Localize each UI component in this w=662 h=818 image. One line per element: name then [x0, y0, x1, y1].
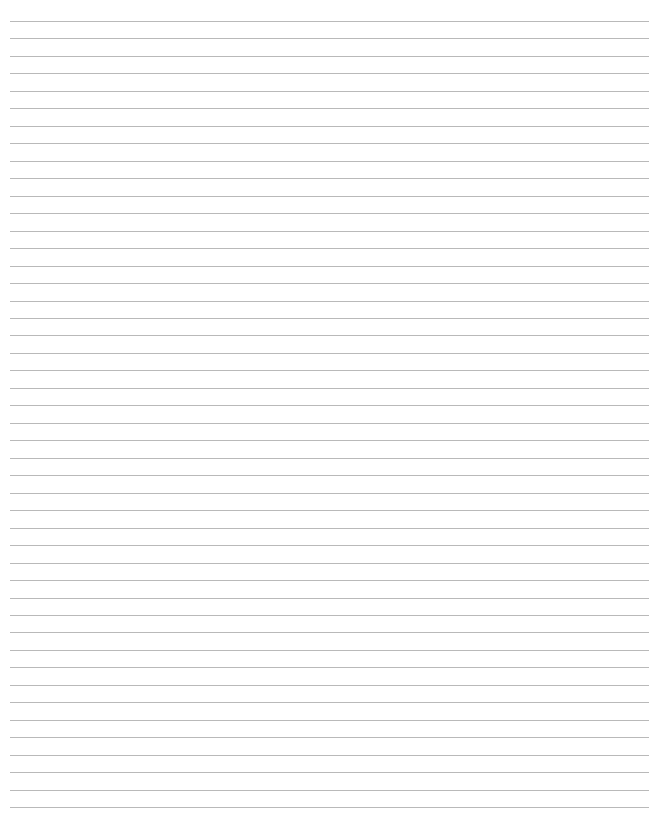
ruled-line: [10, 650, 649, 651]
ruled-line: [10, 231, 649, 232]
ruled-line: [10, 737, 649, 738]
ruled-line: [10, 580, 649, 581]
ruled-line: [10, 720, 649, 721]
ruled-line: [10, 598, 649, 599]
ruled-line: [10, 213, 649, 214]
ruled-line: [10, 178, 649, 179]
ruled-line: [10, 685, 649, 686]
ruled-line: [10, 196, 649, 197]
ruled-line: [10, 283, 649, 284]
ruled-line: [10, 772, 649, 773]
ruled-line: [10, 493, 649, 494]
ruled-line: [10, 545, 649, 546]
ruled-line: [10, 440, 649, 441]
ruled-line: [10, 73, 649, 74]
ruled-line: [10, 702, 649, 703]
ruled-line: [10, 126, 649, 127]
ruled-line: [10, 388, 649, 389]
ruled-line: [10, 528, 649, 529]
ruled-line: [10, 91, 649, 92]
ruled-line: [10, 370, 649, 371]
ruled-line: [10, 248, 649, 249]
ruled-line: [10, 755, 649, 756]
ruled-line: [10, 790, 649, 791]
ruled-line: [10, 615, 649, 616]
ruled-line: [10, 667, 649, 668]
lined-paper-sheet: [0, 0, 662, 818]
ruled-line: [10, 143, 649, 144]
ruled-line: [10, 563, 649, 564]
ruled-line: [10, 458, 649, 459]
ruled-line: [10, 475, 649, 476]
ruled-line: [10, 21, 649, 22]
ruled-line: [10, 108, 649, 109]
ruled-line: [10, 423, 649, 424]
ruled-line: [10, 318, 649, 319]
ruled-line: [10, 161, 649, 162]
ruled-line: [10, 335, 649, 336]
ruled-line: [10, 301, 649, 302]
ruled-line: [10, 38, 649, 39]
ruled-line: [10, 56, 649, 57]
ruled-line: [10, 405, 649, 406]
ruled-line: [10, 632, 649, 633]
ruled-line: [10, 353, 649, 354]
ruled-line: [10, 510, 649, 511]
ruled-line: [10, 266, 649, 267]
ruled-line: [10, 807, 649, 808]
